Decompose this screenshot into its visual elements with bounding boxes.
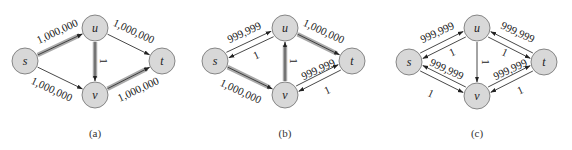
panel-b: 999,99911,000,0001,000,000999,99911suvt(… <box>202 15 365 140</box>
edge-capacity-label: 1,000,000 <box>116 74 161 104</box>
panel-caption: (b) <box>279 127 292 140</box>
edge-u-t: 1,000,000 <box>298 16 347 55</box>
node-v: v <box>82 82 108 108</box>
node-u: u <box>464 15 490 41</box>
edge-capacity-label: 1,000,000 <box>30 74 75 104</box>
edge-capacity-label: 999,999 <box>499 19 537 45</box>
edge-s-v: 999,999 <box>420 56 466 92</box>
edge-u-t: 1,000,000 <box>108 16 157 55</box>
edge-capacity-label: 999,999 <box>491 56 529 82</box>
edge-capacity-label: 1 <box>98 58 110 64</box>
node-label: u <box>474 21 480 35</box>
edge-capacity-label: 1 <box>288 58 300 64</box>
edge-s-u: 999,999 <box>225 19 271 53</box>
edge-capacity-label: 1,000,000 <box>35 16 80 46</box>
flow-network-figure: 1,000,0001,000,0001,000,0001,000,0001suv… <box>0 0 572 150</box>
node-s: s <box>396 49 422 75</box>
node-s: s <box>12 48 38 74</box>
node-v: v <box>272 82 298 108</box>
edge-capacity-label: 999,999 <box>418 19 456 45</box>
node-v: v <box>464 83 490 109</box>
edge-capacity-label: 1 <box>515 83 525 96</box>
edge-capacity-label: 999,999 <box>299 56 337 82</box>
edge-s-u: 999,999 <box>418 19 463 53</box>
panel-caption: (c) <box>471 127 484 140</box>
node-label: u <box>282 21 288 35</box>
edge-v-t: 1,000,000 <box>107 67 160 103</box>
node-u: u <box>82 15 108 41</box>
edge-capacity-label: 1 <box>322 83 332 96</box>
node-label: u <box>92 21 98 35</box>
edge-u-t: 999,999 <box>488 19 537 58</box>
edge-v-t: 999,999 <box>296 56 338 86</box>
edge-capacity-label: 999,999 <box>225 19 263 45</box>
edge-capacity-label: 1 <box>480 59 492 65</box>
edge-s-u: 1,000,000 <box>35 16 83 55</box>
edge-s-v: 1,000,000 <box>219 67 273 106</box>
node-label: s <box>213 54 218 68</box>
edge-u-v: 1 <box>95 42 110 81</box>
edge-v-u: 1 <box>285 42 300 81</box>
node-label: v <box>474 89 480 103</box>
node-t: t <box>339 48 365 74</box>
panel-a: 1,000,0001,000,0001,000,0001,000,0001suv… <box>12 15 175 140</box>
edge-capacity-label: 1 <box>251 48 261 61</box>
edge-s-v: 1,000,000 <box>30 67 83 104</box>
edge-capacity-label: 1 <box>447 45 457 58</box>
edge-v-t: 999,999 <box>488 56 530 87</box>
edge-capacity-label: 1 <box>500 45 510 58</box>
panel-caption: (a) <box>89 127 102 140</box>
node-t: t <box>149 48 175 74</box>
node-s: s <box>202 48 228 74</box>
node-t: t <box>531 49 557 75</box>
node-label: v <box>282 88 288 102</box>
node-label: v <box>92 88 98 102</box>
panel-c: 999,9991999,9991999,9991999,99911suvt(c) <box>396 15 557 140</box>
edge-capacity-label: 1 <box>426 86 436 99</box>
node-label: s <box>23 54 28 68</box>
edge-u-v: 1 <box>477 42 492 82</box>
node-label: s <box>407 55 412 69</box>
node-u: u <box>272 15 298 41</box>
edge-capacity-label: 1,000,000 <box>112 16 157 46</box>
